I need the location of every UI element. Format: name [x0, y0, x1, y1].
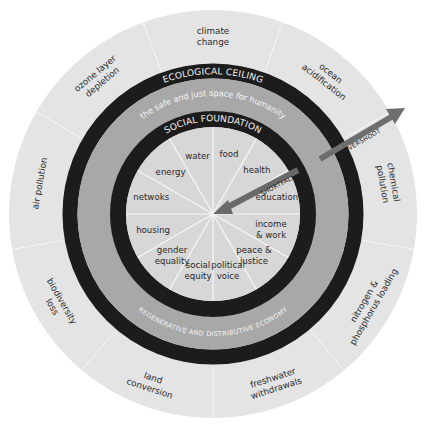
- dimension-water: water: [185, 151, 210, 161]
- dimension-income: income& work: [255, 219, 286, 240]
- dimension-climate: climatechange: [197, 26, 230, 47]
- dimension-food: food: [220, 149, 239, 159]
- doughnut-diagram: ECOLOGICAL CEILING the safe and just spa…: [0, 0, 426, 428]
- dimension-networks: netwoks: [133, 192, 169, 202]
- dimension-gender: genderequality: [155, 245, 190, 266]
- dimension-housing: housing: [136, 225, 170, 235]
- dimension-energy: energy: [156, 167, 186, 177]
- dimension-health: health: [243, 165, 270, 175]
